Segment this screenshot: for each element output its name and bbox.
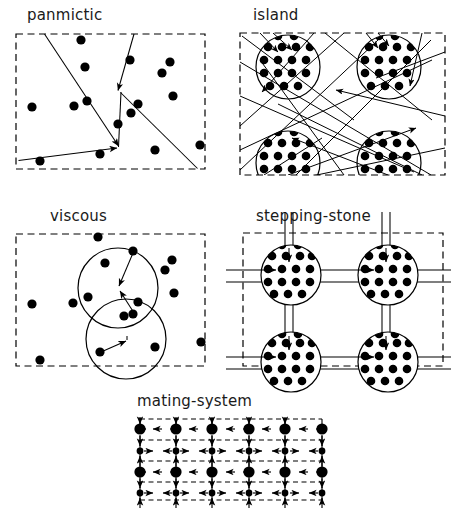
panmictic-mating-lines [19,34,198,169]
panel-panmictic: panmictic [0,0,226,200]
viscous-boundary [16,234,205,366]
island-diagram [226,0,451,200]
panel-mating-system: mating-system [113,385,338,515]
stepping-stone-deme [358,330,418,392]
panel-stepping-stone: stepping-stone [226,200,451,385]
stepping-stone-diagram [226,200,451,385]
stepping-stone-deme [261,330,321,392]
panel-viscous: viscous [0,200,226,385]
stepping-stone-deme [358,241,418,305]
panmictic-individuals [27,35,204,165]
island-deme [256,32,320,99]
island-deme [357,32,421,99]
viscous-neighbourhood-circle [86,299,166,379]
mating-system-vertical-arrows [140,417,322,508]
mating-system-individuals [134,423,327,496]
panmictic-diagram [0,0,226,200]
mating-system-territory-lattice [140,419,322,500]
panel-island: island [226,0,451,200]
viscous-neighbourhood-circle [78,248,158,328]
figure-population-structure-models: panmictic [0,0,451,515]
viscous-diagram [0,200,226,385]
viscous-mating-arrows [101,253,136,352]
stepping-stone-deme [261,241,321,305]
mating-system-diagram [113,385,338,515]
